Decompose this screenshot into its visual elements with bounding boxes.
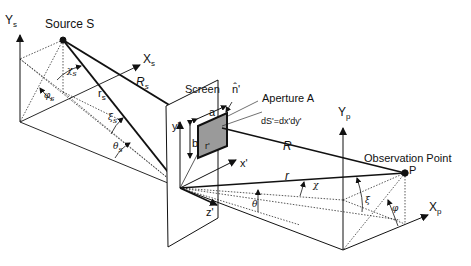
b-dimension-label: b — [192, 138, 198, 149]
observation-frame — [343, 128, 428, 250]
aperture-label: Aperture A — [262, 93, 314, 104]
n-prime-label: n̂' — [232, 84, 240, 95]
ys-axis-label: Ys — [5, 14, 17, 26]
r-s-label: rs — [98, 88, 106, 99]
R-s-label: Rs — [136, 76, 149, 88]
screen-plane — [166, 80, 236, 247]
observation-point-label: Observation Point — [364, 153, 451, 164]
x-prime-label: x' — [240, 158, 248, 169]
theta-label: θ — [252, 200, 257, 209]
phi-s-label: φs — [44, 91, 54, 100]
chi-s-label: χs — [67, 66, 77, 75]
chi-label: χ — [313, 181, 318, 190]
a-dimension-label: a — [209, 107, 215, 118]
source-frame — [20, 35, 180, 188]
screen-label: Screen — [185, 84, 220, 95]
diagram-lines — [0, 0, 471, 266]
diffraction-diagram: Ys Source S Xs χs φs rs Rs ξs θs Screen … — [0, 0, 471, 266]
theta-s-label: θs — [113, 142, 123, 151]
dS-label: dS'=dx'dy' — [261, 117, 301, 126]
yp-axis-label: Yp — [338, 106, 350, 118]
z-prime-label: z' — [206, 207, 214, 218]
y-prime-label: y' — [172, 121, 180, 132]
source-label: Source S — [45, 18, 94, 30]
r-label: r — [285, 170, 289, 182]
xp-axis-label: Xp — [429, 201, 441, 213]
R-label: R — [283, 140, 292, 152]
r-prime-label: r' — [205, 142, 210, 151]
phi-label: φ — [392, 204, 398, 213]
xs-axis-label: Xs — [143, 53, 155, 65]
xi-label: ξ — [365, 196, 370, 205]
xi-s-label: ξs — [108, 113, 117, 122]
p-label: P — [409, 165, 416, 176]
